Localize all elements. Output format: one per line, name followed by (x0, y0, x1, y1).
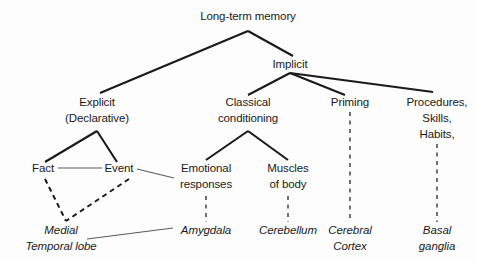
node-event: Event (105, 162, 135, 174)
edge-medial-to-amygdala (87, 228, 173, 239)
node-cerebral-cortex-line2: Cortex (333, 240, 368, 252)
node-explicit-line1: Explicit (79, 96, 116, 108)
node-muscles-of-body-line1: Muscles (267, 162, 309, 174)
node-procedures-line2: Skills, (422, 112, 451, 124)
edge-root-to-explicit (100, 31, 248, 93)
edge-explicit-to-event (97, 131, 117, 162)
diagram-canvas: Long-term memory Implicit Explicit (Decl… (0, 0, 477, 262)
node-emotional-responses-line2: responses (180, 178, 233, 190)
node-amygdala: Amygdala (180, 224, 231, 236)
edge-layer (45, 31, 437, 239)
node-cerebellum: Cerebellum (259, 224, 317, 236)
edge-implicit-to-classical (248, 73, 290, 95)
edge-root-to-implicit (248, 31, 293, 56)
node-fact: Fact (32, 162, 55, 174)
node-procedures-line3: Habits, (419, 128, 454, 140)
node-priming: Priming (331, 96, 369, 108)
edge-classical-to-muscles (248, 131, 288, 160)
memory-taxonomy-diagram: Long-term memory Implicit Explicit (Decl… (0, 0, 477, 262)
node-classical-conditioning-line2: conditioning (218, 112, 278, 124)
edge-event-to-emotional (137, 169, 174, 178)
node-basal-ganglia-line1: Basal (423, 224, 452, 236)
node-cerebral-cortex-line1: Cerebral (328, 224, 372, 236)
node-medial-temporal-lobe-line1: Medial (44, 224, 78, 236)
node-classical-conditioning-line1: Classical (225, 96, 270, 108)
edge-fact-to-medial (45, 179, 66, 221)
node-basal-ganglia-line2: ganglia (419, 240, 455, 252)
edge-event-to-medial (66, 179, 129, 221)
node-muscles-of-body-line2: of body (269, 178, 306, 190)
edge-classical-to-emotional (206, 131, 248, 160)
edge-explicit-to-fact (45, 131, 97, 162)
node-implicit: Implicit (273, 58, 309, 70)
node-long-term-memory: Long-term memory (200, 10, 296, 22)
node-emotional-responses-line1: Emotional (181, 162, 231, 174)
node-explicit-line2: (Declarative) (65, 112, 129, 124)
node-procedures-line1: Procedures, (407, 96, 468, 108)
node-medial-temporal-lobe-line2: Temporal lobe (25, 240, 96, 252)
